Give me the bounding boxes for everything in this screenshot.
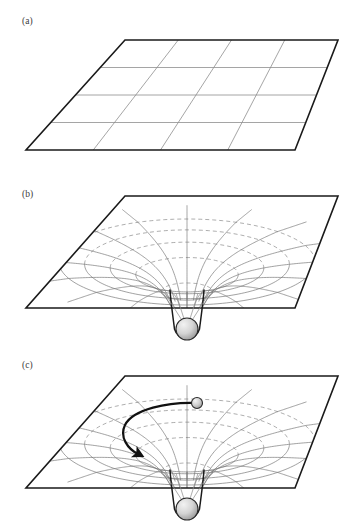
spacetime-curvature-figure: (a)(b)(c) bbox=[0, 0, 358, 525]
panel-label-a: (a) bbox=[22, 16, 33, 27]
panel-label-c: (c) bbox=[22, 360, 33, 371]
figure-canvas: (a)(b)(c) bbox=[0, 0, 358, 525]
test-particle-sphere bbox=[192, 398, 203, 409]
central-mass-sphere bbox=[176, 498, 198, 520]
panel-label-b: (b) bbox=[22, 189, 33, 200]
central-mass-sphere bbox=[176, 318, 198, 340]
